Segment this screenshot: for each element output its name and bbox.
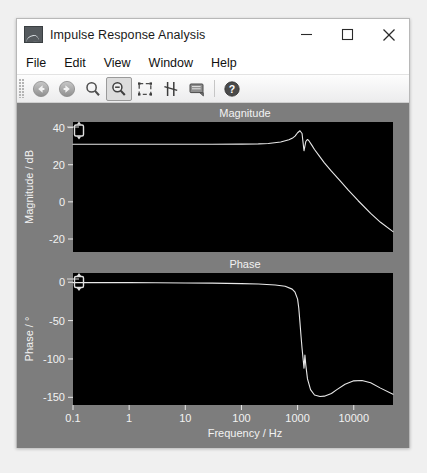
phase-plot-background (73, 273, 393, 405)
y-tick-label: 20 (53, 159, 65, 171)
zoom-fit-icon (136, 80, 154, 98)
maximize-button[interactable] (327, 20, 368, 50)
minimize-icon (300, 28, 313, 41)
menu-item-file[interactable]: File (26, 56, 46, 70)
data-cursor-button[interactable] (158, 77, 184, 101)
x-tick-label: 0.1 (65, 412, 80, 424)
zoom-out-button[interactable] (106, 77, 132, 101)
x-tick-label: 100 (232, 412, 250, 424)
zoom-out-icon (110, 80, 128, 98)
x-tick-label: 10 (179, 412, 191, 424)
minimize-button[interactable] (286, 20, 327, 50)
magnitude-axis-label: Magnitude / dB (23, 150, 35, 224)
y-tick-label: 0 (59, 196, 65, 208)
title-bar[interactable]: Impulse Response Analysis (17, 19, 409, 51)
y-tick-label: -100 (43, 353, 65, 365)
data-cursor-icon (162, 80, 180, 98)
phase-title: Phase (229, 258, 260, 270)
forward-icon (58, 80, 76, 98)
menu-item-help[interactable]: Help (211, 56, 237, 70)
x-tick-label: 10000 (338, 412, 369, 424)
toolbar-separator (214, 80, 215, 97)
x-tick-label: 1 (126, 412, 132, 424)
svg-text:?: ? (229, 82, 235, 94)
menu-item-view[interactable]: View (104, 56, 131, 70)
y-tick-label: -150 (43, 391, 65, 403)
plot-area[interactable]: Magnitude 40200-20 Magnitude / dB Phase … (17, 103, 409, 448)
toolbar-drag-handle[interactable] (19, 79, 25, 98)
close-button[interactable] (368, 20, 409, 50)
help-button[interactable]: ? (219, 77, 245, 101)
y-tick-label: -50 (49, 315, 65, 327)
magnitude-title: Magnitude (219, 107, 270, 119)
menu-bar: File Edit View Window Help (17, 51, 409, 74)
legend-button[interactable] (184, 77, 210, 101)
menu-item-edit[interactable]: Edit (64, 56, 86, 70)
legend-icon (188, 80, 206, 98)
window-title: Impulse Response Analysis (50, 28, 205, 42)
back-icon (32, 80, 50, 98)
phase-x-ticks: 0.1110100100010000 (65, 405, 369, 424)
zoom-in-icon (84, 80, 102, 98)
maximize-icon (341, 28, 354, 41)
menu-item-window[interactable]: Window (149, 56, 193, 70)
y-tick-label: 0 (59, 276, 65, 288)
plot-thumbnail-icon (24, 26, 43, 43)
frequency-axis-label: Frequency / Hz (208, 427, 283, 439)
phase-subplot: Phase 0-50-100-150 0.1110100100010000 Ph… (23, 258, 393, 439)
magnitude-y-ticks: 40200-20 (49, 122, 73, 245)
y-tick-label: 40 (53, 122, 65, 134)
zoom-in-button[interactable] (80, 77, 106, 101)
forward-button[interactable] (54, 77, 80, 101)
x-tick-label: 1000 (285, 412, 309, 424)
phase-axis-label: Phase / ° (23, 317, 35, 362)
toolbar: ? (17, 74, 409, 103)
close-icon (382, 28, 396, 42)
phase-y-ticks: 0-50-100-150 (43, 276, 73, 403)
application-window: Impulse Response Analysis File Edit View… (16, 18, 410, 448)
help-icon: ? (223, 80, 241, 98)
back-button[interactable] (28, 77, 54, 101)
response-plots[interactable]: Magnitude 40200-20 Magnitude / dB Phase … (17, 103, 407, 448)
zoom-fit-button[interactable] (132, 77, 158, 101)
magnitude-subplot: Magnitude 40200-20 Magnitude / dB (23, 107, 393, 252)
y-tick-label: -20 (49, 233, 65, 245)
